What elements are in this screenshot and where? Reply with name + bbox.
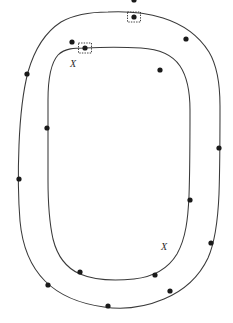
vertex-point-outer-7[interactable] <box>45 282 50 287</box>
vertex-point-outer-4[interactable] <box>208 240 213 245</box>
label-x-lower: X <box>161 242 167 252</box>
vertex-point-inner-1[interactable] <box>82 45 87 50</box>
diagram-canvas: X X <box>0 0 233 323</box>
vertex-point-inner-5[interactable] <box>77 269 82 274</box>
vertex-point-outer-5[interactable] <box>167 288 172 293</box>
vertex-point-inner-4[interactable] <box>152 272 157 277</box>
vertex-point-outer-10[interactable] <box>69 39 74 44</box>
vertex-point-outer-3[interactable] <box>216 145 221 150</box>
vertex-point-inner-3[interactable] <box>187 197 192 202</box>
vertex-point-inner-6[interactable] <box>44 125 49 130</box>
vertex-point-outer-1[interactable] <box>131 14 136 19</box>
label-x-upper: X <box>70 59 76 69</box>
vertex-point-outer-8[interactable] <box>16 176 21 181</box>
inner-curve-path[interactable] <box>48 47 190 280</box>
outer-vertex-group <box>16 14 221 308</box>
vertex-point[interactable] <box>131 0 136 3</box>
inner-vertex-group <box>44 45 192 277</box>
vertex-point-outer-2[interactable] <box>183 36 188 41</box>
spline-figure <box>0 0 233 323</box>
vertex-point-outer-9[interactable] <box>24 71 29 76</box>
vertex-point-outer-6[interactable] <box>105 303 110 308</box>
vertex-point-inner-2[interactable] <box>157 67 162 72</box>
